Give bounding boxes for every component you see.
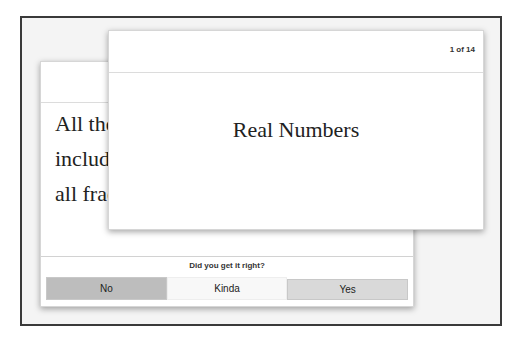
flashcard-viewer-frame: All the includ all frac Did you get it r… [20,16,502,326]
feedback-buttons: No Kinda Yes [46,277,408,300]
front-card-term: Real Numbers [109,117,483,143]
no-button[interactable]: No [46,277,167,300]
yes-button[interactable]: Yes [287,279,408,300]
kinda-button[interactable]: Kinda [167,277,288,300]
feedback-footer: Did you get it right? No Kinda Yes [41,256,413,306]
feedback-prompt: Did you get it right? [41,261,413,270]
front-card-header: 1 of 14 [109,31,483,73]
front-card[interactable]: 1 of 14 Real Numbers [108,30,484,230]
card-counter: 1 of 14 [450,45,475,54]
